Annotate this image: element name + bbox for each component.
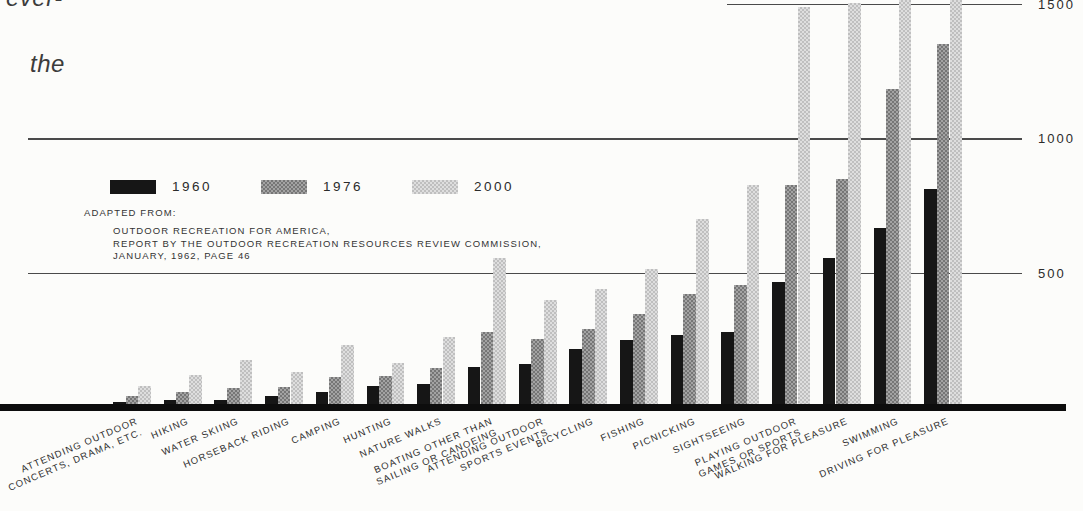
x-axis-baseline — [0, 404, 1066, 411]
bar-2000-picnicking — [696, 219, 709, 410]
bar-2000-walking-for-pleasure — [848, 3, 861, 410]
bar-2000-boating-other-than-sailing-or-canoeing — [493, 258, 506, 410]
bar-2000-driving-for-pleasure — [950, 0, 963, 410]
scanned-bar-chart-page: ever- the 50010001500 1960 1976 2000 ADA… — [0, 0, 1083, 511]
legend-swatch-1976 — [261, 180, 307, 194]
bar-1976-bicycling — [582, 329, 595, 410]
bar-1960-fishing — [620, 340, 633, 410]
legend-item-1960: 1960 — [110, 179, 212, 194]
y-tick-label-1500: 1500 — [1038, 0, 1083, 12]
y-tick-label-500: 500 — [1038, 266, 1083, 281]
bar-2000-bicycling — [595, 289, 608, 410]
bar-1976-sightseeing — [734, 285, 747, 410]
gridline-1000 — [28, 138, 1022, 140]
bar-1960-playing-outdoor-games-or-sports — [772, 282, 785, 410]
y-tick-label-1000: 1000 — [1038, 131, 1083, 146]
bar-2000-water-skiing — [240, 360, 253, 410]
bar-1960-walking-for-pleasure — [823, 258, 836, 410]
bar-1976-walking-for-pleasure — [836, 179, 849, 410]
bar-1960-swimming — [874, 228, 887, 410]
bar-1976-picnicking — [683, 294, 696, 410]
legend-swatch-2000 — [412, 180, 458, 194]
source-line: JANUARY, 1962, PAGE 46 — [113, 250, 542, 263]
bar-1976-fishing — [633, 314, 646, 410]
legend-label-1976: 1976 — [323, 179, 363, 194]
bar-2000-playing-outdoor-games-or-sports — [798, 7, 811, 410]
gridline-1500 — [727, 4, 1022, 6]
bar-2000-fishing — [645, 269, 658, 410]
chart-legend: 1960 1976 2000 — [110, 179, 563, 194]
source-lines: OUTDOOR RECREATION FOR AMERICA, REPORT B… — [113, 225, 542, 263]
bar-1960-bicycling — [569, 349, 582, 410]
source-line: REPORT BY THE OUTDOOR RECREATION RESOURC… — [113, 238, 542, 251]
bar-2000-swimming — [899, 0, 912, 410]
bar-2000-hunting — [392, 363, 405, 410]
page-margin-text-fragment: ever- — [6, 0, 63, 12]
bar-1976-playing-outdoor-games-or-sports — [785, 185, 798, 410]
bar-1976-boating-other-than-sailing-or-canoeing — [481, 332, 494, 410]
bar-1976-driving-for-pleasure — [937, 44, 950, 410]
legend-label-1960: 1960 — [172, 179, 212, 194]
bar-1960-picnicking — [671, 335, 684, 411]
bar-1960-sightseeing — [721, 332, 734, 410]
bar-2000-attending-outdoor-sports-events — [544, 300, 557, 411]
legend-label-2000: 2000 — [474, 179, 514, 194]
bar-1976-attending-outdoor-sports-events — [531, 339, 544, 411]
bar-2000-nature-walks — [443, 337, 456, 410]
bar-1976-swimming — [886, 89, 899, 410]
bar-2000-camping — [341, 345, 354, 410]
legend-item-2000: 2000 — [412, 179, 514, 194]
legend-item-1976: 1976 — [261, 179, 363, 194]
source-attribution: ADAPTED FROM: OUTDOOR RECREATION FOR AME… — [84, 207, 542, 263]
bar-2000-sightseeing — [747, 185, 760, 410]
legend-swatch-1960 — [110, 180, 156, 194]
source-line: OUTDOOR RECREATION FOR AMERICA, — [113, 225, 542, 238]
bar-1960-driving-for-pleasure — [924, 189, 937, 410]
source-intro: ADAPTED FROM: — [84, 207, 542, 218]
page-margin-text-fragment: the — [30, 50, 65, 78]
